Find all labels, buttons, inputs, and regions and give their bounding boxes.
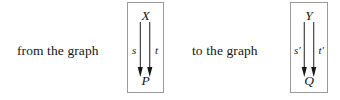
phrase-from-the-graph: from the graph <box>17 44 99 58</box>
target-graph-box: Y s′ t′ Q <box>290 2 328 93</box>
source-graph-edge-label-t: t <box>155 45 158 56</box>
source-graph-edge-label-s: s <box>132 45 136 56</box>
figure-canvas: from the graph X s t P to the graph Y s′… <box>0 0 340 100</box>
source-graph-top-node: X <box>128 9 163 23</box>
target-graph-edge-label-t-prime: t′ <box>319 45 324 56</box>
phrase-to-the-graph: to the graph <box>192 44 258 58</box>
target-graph-bottom-node: Q <box>291 74 327 88</box>
source-graph-box: X s t P <box>127 2 164 93</box>
source-graph-bottom-node: P <box>128 74 163 88</box>
target-graph-top-node: Y <box>291 9 327 23</box>
target-graph-edge-label-s-prime: s′ <box>294 45 301 56</box>
